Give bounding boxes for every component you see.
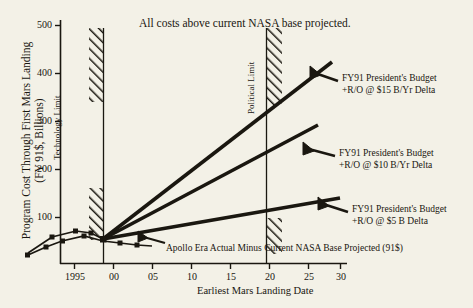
y-tick-label-400: 400 (22, 67, 52, 78)
chart-title: All costs above current NASA base projec… (139, 17, 351, 29)
x-tick-label-20: 20 (250, 271, 290, 282)
series-line-15b (103, 62, 332, 239)
series-annotation-5b-line1: FY91 President's Budget (352, 204, 447, 216)
x-axis-label: Earliest Mars Landing Date (197, 285, 313, 296)
technology-limit-label: Technology Limit (52, 95, 62, 160)
apollo-era-annotation: Apollo Era Actual Minus Current NASA Bas… (166, 243, 403, 253)
series-annotation-10b-line1: FY91 President's Budget (339, 148, 434, 160)
x-tick-label-00: 00 (94, 271, 134, 282)
x-tick-label-30: 30 (321, 271, 361, 282)
technology-limit-marker (89, 28, 104, 264)
series-annotation-15b: FY91 President's Budget +R/O @ $15 B/Yr … (342, 73, 437, 96)
y-tick-label-100: 100 (22, 211, 52, 222)
x-tick-label-05: 05 (133, 271, 173, 282)
y-tick-label-300: 300 (22, 115, 52, 126)
x-tick-label-1995: 1995 (55, 271, 95, 282)
y-tick-label-500: 500 (22, 19, 52, 30)
series-annotation-15b-line2: +R/O @ $15 B/Yr Delta (342, 85, 437, 97)
series-annotation-5b: FY91 President's Budget +R/O @ $5 B Delt… (352, 204, 447, 227)
political-limit-label: Political Limit (246, 62, 256, 114)
y-tick-label-200: 200 (22, 163, 52, 174)
series-annotation-15b-line1: FY91 President's Budget (342, 73, 437, 85)
arrow-10b (303, 142, 335, 156)
chart-container: All costs above current NASA base projec… (0, 0, 473, 308)
series-annotation-5b-line2: +R/O @ $5 B Delta (352, 216, 447, 228)
series-annotation-10b-line2: +R/O @ $10 B/Yr Delta (339, 160, 434, 172)
x-tick-label-15: 15 (211, 271, 251, 282)
x-tick-label-10: 10 (172, 271, 212, 282)
series-annotation-10b: FY91 President's Budget +R/O @ $10 B/Yr … (339, 148, 434, 171)
